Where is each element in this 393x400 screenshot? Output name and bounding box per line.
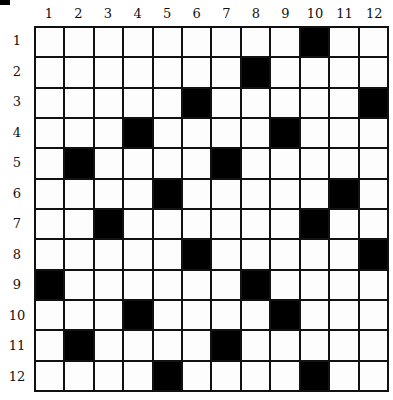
grid-cell[interactable]: [301, 271, 328, 299]
grid-cell[interactable]: [301, 180, 328, 208]
grid-cell[interactable]: [301, 149, 328, 177]
grid-cell[interactable]: [65, 119, 92, 147]
grid-cell[interactable]: [36, 149, 63, 177]
grid-cell[interactable]: [183, 119, 210, 147]
grid-cell[interactable]: [212, 301, 239, 329]
grid-cell[interactable]: [271, 362, 298, 390]
grid-cell[interactable]: [183, 301, 210, 329]
grid-cell[interactable]: [154, 89, 181, 117]
grid-cell[interactable]: [124, 210, 151, 238]
grid-cell[interactable]: [301, 240, 328, 268]
grid-cell[interactable]: [36, 58, 63, 86]
grid-cell[interactable]: [65, 301, 92, 329]
grid-cell[interactable]: [95, 28, 122, 56]
grid-cell[interactable]: [65, 89, 92, 117]
grid-cell[interactable]: [65, 271, 92, 299]
grid-cell[interactable]: [183, 210, 210, 238]
grid-cell[interactable]: [212, 89, 239, 117]
grid-cell[interactable]: [330, 240, 357, 268]
grid-cell[interactable]: [124, 28, 151, 56]
grid-cell[interactable]: [212, 271, 239, 299]
grid-cell[interactable]: [271, 149, 298, 177]
grid-cell[interactable]: [154, 149, 181, 177]
grid-cell[interactable]: [360, 301, 387, 329]
grid-cell[interactable]: [360, 180, 387, 208]
grid-cell[interactable]: [242, 210, 269, 238]
grid-cell[interactable]: [360, 271, 387, 299]
grid-cell[interactable]: [360, 362, 387, 390]
grid-cell[interactable]: [212, 58, 239, 86]
grid-cell[interactable]: [212, 119, 239, 147]
grid-cell[interactable]: [301, 58, 328, 86]
grid-cell[interactable]: [36, 240, 63, 268]
grid-cell[interactable]: [242, 119, 269, 147]
grid-cell[interactable]: [212, 180, 239, 208]
grid-cell[interactable]: [330, 89, 357, 117]
grid-cell[interactable]: [212, 240, 239, 268]
grid-cell[interactable]: [95, 301, 122, 329]
grid-cell[interactable]: [360, 119, 387, 147]
grid-cell[interactable]: [271, 180, 298, 208]
grid-cell[interactable]: [154, 331, 181, 359]
grid-cell[interactable]: [301, 301, 328, 329]
grid-cell[interactable]: [330, 271, 357, 299]
grid-cell[interactable]: [65, 362, 92, 390]
grid-cell[interactable]: [95, 89, 122, 117]
grid-cell[interactable]: [183, 362, 210, 390]
grid-cell[interactable]: [95, 362, 122, 390]
grid-cell[interactable]: [154, 271, 181, 299]
grid-cell[interactable]: [242, 362, 269, 390]
grid-cell[interactable]: [124, 180, 151, 208]
grid-cell[interactable]: [65, 210, 92, 238]
grid-cell[interactable]: [95, 271, 122, 299]
grid-cell[interactable]: [301, 119, 328, 147]
grid-cell[interactable]: [154, 119, 181, 147]
grid-cell[interactable]: [360, 28, 387, 56]
grid-cell[interactable]: [330, 58, 357, 86]
grid-cell[interactable]: [124, 240, 151, 268]
grid-cell[interactable]: [271, 240, 298, 268]
grid-cell[interactable]: [242, 331, 269, 359]
grid-cell[interactable]: [271, 271, 298, 299]
grid-cell[interactable]: [95, 331, 122, 359]
grid-cell[interactable]: [124, 89, 151, 117]
grid-cell[interactable]: [242, 180, 269, 208]
grid-cell[interactable]: [36, 301, 63, 329]
grid-cell[interactable]: [301, 89, 328, 117]
grid-cell[interactable]: [183, 149, 210, 177]
grid-cell[interactable]: [183, 28, 210, 56]
grid-cell[interactable]: [271, 331, 298, 359]
grid-cell[interactable]: [154, 210, 181, 238]
grid-cell[interactable]: [95, 180, 122, 208]
grid-cell[interactable]: [65, 180, 92, 208]
grid-cell[interactable]: [271, 89, 298, 117]
grid-cell[interactable]: [360, 331, 387, 359]
grid-cell[interactable]: [124, 58, 151, 86]
grid-cell[interactable]: [95, 119, 122, 147]
grid-cell[interactable]: [330, 362, 357, 390]
grid-cell[interactable]: [124, 331, 151, 359]
grid-cell[interactable]: [360, 58, 387, 86]
grid-cell[interactable]: [330, 331, 357, 359]
grid-cell[interactable]: [36, 362, 63, 390]
grid-cell[interactable]: [124, 362, 151, 390]
grid-cell[interactable]: [65, 58, 92, 86]
grid-cell[interactable]: [330, 28, 357, 56]
grid-cell[interactable]: [271, 28, 298, 56]
grid-cell[interactable]: [154, 301, 181, 329]
grid-cell[interactable]: [183, 58, 210, 86]
grid-cell[interactable]: [242, 301, 269, 329]
grid-cell[interactable]: [65, 240, 92, 268]
grid-cell[interactable]: [154, 28, 181, 56]
grid-cell[interactable]: [242, 89, 269, 117]
grid-cell[interactable]: [154, 58, 181, 86]
grid-cell[interactable]: [183, 331, 210, 359]
grid-cell[interactable]: [36, 210, 63, 238]
grid-cell[interactable]: [301, 331, 328, 359]
grid-cell[interactable]: [360, 210, 387, 238]
grid-cell[interactable]: [36, 119, 63, 147]
grid-cell[interactable]: [95, 58, 122, 86]
grid-cell[interactable]: [212, 28, 239, 56]
grid-cell[interactable]: [36, 89, 63, 117]
grid-cell[interactable]: [65, 28, 92, 56]
